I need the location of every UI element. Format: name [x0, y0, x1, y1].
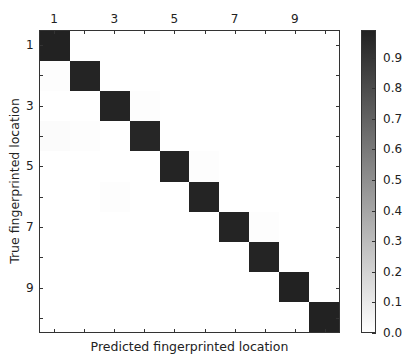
colorbar-tick-label: 0.2: [383, 266, 402, 278]
heatmap-plot-area: [39, 30, 340, 333]
heatmap-cell: [189, 91, 219, 121]
heatmap-cell: [279, 272, 309, 302]
heatmap-cell: [309, 61, 339, 91]
heatmap-cell: [249, 31, 279, 61]
heatmap-cell: [249, 61, 279, 91]
heatmap-cell: [130, 212, 160, 242]
y-tick-mark: [39, 166, 43, 167]
heatmap-cell: [309, 151, 339, 181]
heatmap-cell: [279, 302, 309, 332]
heatmap-cell: [100, 272, 130, 302]
heatmap-cell: [40, 61, 70, 91]
heatmap-cell: [160, 151, 190, 181]
heatmap-cell: [160, 212, 190, 242]
heatmap-cell: [219, 242, 249, 272]
heatmap-cell: [219, 272, 249, 302]
heatmap-cell: [130, 182, 160, 212]
x-tick-mark: [174, 329, 175, 333]
heatmap-cell: [130, 121, 160, 151]
colorbar-tick-mark: [372, 180, 376, 181]
colorbar-tick-label: 0.3: [383, 235, 402, 247]
x-tick-mark: [205, 329, 206, 333]
heatmap-cell: [100, 242, 130, 272]
colorbar-tick-mark: [372, 272, 376, 273]
y-tick-mark: [336, 318, 340, 319]
heatmap-cell: [309, 121, 339, 151]
x-tick-mark: [235, 30, 236, 34]
x-tick-mark: [54, 30, 55, 34]
heatmap-cell: [160, 272, 190, 302]
heatmap-cell: [40, 242, 70, 272]
y-tick-label: 3: [26, 100, 34, 112]
colorbar-tick-label: 0.1: [383, 296, 402, 308]
x-tick-mark: [325, 30, 326, 34]
x-tick-mark: [144, 30, 145, 34]
y-tick-mark: [39, 75, 43, 76]
x-axis-label: Predicted fingerprinted location: [39, 339, 340, 354]
heatmap-cell: [100, 151, 130, 181]
heatmap-cell: [100, 31, 130, 61]
heatmap-cell: [100, 91, 130, 121]
y-tick-mark: [39, 197, 43, 198]
colorbar-tick-mark: [372, 333, 376, 334]
heatmap-cell: [249, 242, 279, 272]
x-tick-label: 5: [171, 13, 179, 25]
heatmap-cell: [309, 302, 339, 332]
heatmap-cell: [70, 242, 100, 272]
heatmap-cell: [189, 182, 219, 212]
x-tick-mark: [295, 329, 296, 333]
heatmap-cell: [189, 212, 219, 242]
x-tick-mark: [114, 30, 115, 34]
colorbar-tick-mark: [372, 149, 376, 150]
colorbar-tick-mark: [372, 119, 376, 120]
x-tick-mark: [325, 329, 326, 333]
heatmap-cell: [309, 242, 339, 272]
heatmap-cell: [279, 121, 309, 151]
heatmap-cell: [309, 91, 339, 121]
heatmap-cell: [279, 91, 309, 121]
heatmap-cell: [160, 182, 190, 212]
y-tick-mark: [39, 136, 43, 137]
heatmap-cell: [219, 212, 249, 242]
heatmap-cell: [279, 151, 309, 181]
colorbar-tick-label: 0.6: [383, 143, 402, 155]
heatmap-cell: [160, 31, 190, 61]
heatmap-cell: [309, 272, 339, 302]
heatmap-cell: [249, 151, 279, 181]
colorbar-tick-mark: [372, 241, 376, 242]
y-tick-mark: [336, 197, 340, 198]
heatmap-cell: [160, 91, 190, 121]
heatmap-cell: [309, 212, 339, 242]
colorbar-tick-label: 0.9: [383, 52, 402, 64]
x-tick-mark: [174, 30, 175, 34]
heatmap-cell: [130, 31, 160, 61]
heatmap-cell: [130, 61, 160, 91]
y-tick-mark: [336, 45, 340, 46]
heatmap-cell: [189, 302, 219, 332]
heatmap-cell: [130, 151, 160, 181]
x-tick-mark: [84, 329, 85, 333]
heatmap-cell: [279, 242, 309, 272]
colorbar: [361, 30, 376, 333]
colorbar-tick-label: 0.4: [383, 205, 402, 217]
heatmap-cell: [279, 182, 309, 212]
heatmap-cell: [70, 272, 100, 302]
x-tick-mark: [265, 329, 266, 333]
heatmap-cell: [249, 91, 279, 121]
y-tick-label: 5: [26, 160, 34, 172]
heatmap-cell: [100, 121, 130, 151]
heatmap-cell: [189, 151, 219, 181]
x-tick-label: 7: [231, 13, 239, 25]
heatmap-cell: [70, 121, 100, 151]
heatmap-cell: [70, 182, 100, 212]
y-tick-mark: [336, 257, 340, 258]
y-tick-mark: [336, 136, 340, 137]
heatmap-cell: [219, 31, 249, 61]
heatmap-cell: [219, 91, 249, 121]
heatmap-cell: [189, 121, 219, 151]
colorbar-tick-mark: [372, 211, 376, 212]
y-tick-mark: [336, 166, 340, 167]
colorbar-tick-mark: [372, 88, 376, 89]
y-tick-mark: [39, 318, 43, 319]
confusion-matrix-grid: [40, 31, 339, 332]
